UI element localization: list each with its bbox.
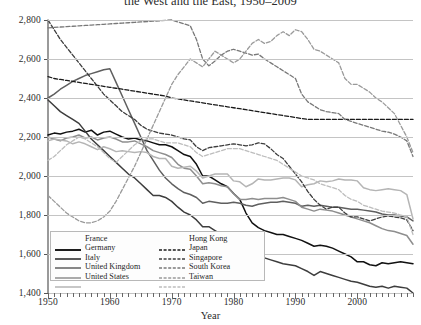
x-tick-mark: [67, 293, 68, 297]
x-tick-mark: [289, 293, 290, 297]
legend-label: Italy: [85, 253, 100, 262]
chart-title: the West and the East, 1950–2009: [0, 0, 421, 9]
x-tick-mark: [97, 293, 98, 297]
gridline: [48, 98, 413, 99]
x-tick-mark: [333, 293, 334, 297]
legend-label: Germany: [85, 243, 115, 252]
x-tick-mark: [79, 293, 80, 297]
x-tick-mark: [295, 293, 296, 299]
x-tick-mark: [339, 293, 340, 297]
y-tick-label: 2,400: [19, 93, 41, 103]
x-tick-mark: [147, 293, 148, 297]
x-axis-title: Year: [0, 310, 421, 321]
x-tick-mark: [351, 293, 352, 297]
y-axis-labels: 1,4001,6001,8002,0002,2002,4002,6002,800: [0, 0, 48, 325]
x-tick-mark: [326, 293, 327, 297]
x-tick-mark: [258, 293, 259, 297]
x-tick-mark: [48, 293, 49, 299]
x-tick-mark: [277, 293, 278, 297]
series-line: [48, 20, 413, 231]
x-tick-mark: [394, 293, 395, 297]
x-tick-mark: [227, 293, 228, 297]
x-tick-mark: [407, 293, 408, 297]
y-axis-title: Hours: [0, 141, 1, 165]
x-tick-mark: [215, 293, 216, 297]
gridline: [48, 215, 413, 216]
series-line: [48, 69, 413, 221]
x-tick-mark: [184, 293, 185, 297]
x-tick-mark: [166, 293, 167, 297]
x-tick-mark: [302, 293, 303, 297]
y-tick-label: 2,600: [19, 54, 41, 64]
legend-label: Singapore: [189, 253, 222, 262]
x-tick-mark: [85, 293, 86, 297]
y-tick-label: 1,600: [19, 249, 41, 259]
legend-label: Hong Kong: [189, 234, 227, 243]
x-tick-mark: [283, 293, 284, 297]
x-tick-mark: [122, 293, 123, 297]
chart-root: the West and the East, 1950–2009 1,4001,…: [0, 0, 421, 325]
x-tick-mark: [128, 293, 129, 297]
x-tick-mark: [203, 293, 204, 297]
x-tick-mark: [104, 293, 105, 297]
x-tick-mark: [370, 293, 371, 297]
legend-column-west: FranceGermanyItalyUnited KingdomUnited S…: [55, 234, 140, 281]
x-tick-mark: [221, 293, 222, 297]
gridline: [48, 137, 413, 138]
legend-label: United Kingdom: [85, 262, 140, 271]
x-tick-mark: [252, 293, 253, 297]
chart-legend: FranceGermanyItalyUnited KingdomUnited S…: [50, 231, 265, 281]
x-tick-mark: [314, 293, 315, 297]
legend-label: France: [85, 234, 107, 243]
x-tick-mark: [159, 293, 160, 297]
x-tick-mark: [196, 293, 197, 297]
y-tick-label: 2,800: [19, 15, 41, 25]
x-tick-mark: [376, 293, 377, 297]
x-tick-mark: [413, 293, 414, 297]
legend-label: Taiwan: [189, 272, 213, 281]
legend-label: Japan: [189, 243, 208, 252]
x-tick-mark: [271, 293, 272, 297]
x-tick-mark: [135, 293, 136, 297]
x-tick-mark: [116, 293, 117, 297]
x-tick-mark: [141, 293, 142, 297]
x-tick-mark: [246, 293, 247, 297]
x-tick-mark: [382, 293, 383, 297]
x-tick-mark: [240, 293, 241, 297]
x-tick-mark: [388, 293, 389, 297]
x-tick-mark: [401, 293, 402, 297]
x-tick-mark: [54, 293, 55, 297]
x-tick-mark: [73, 293, 74, 297]
x-tick-mark: [234, 293, 235, 299]
x-tick-mark: [91, 293, 92, 297]
x-tick-mark: [190, 293, 191, 297]
x-tick-mark: [308, 293, 309, 297]
x-tick-mark: [345, 293, 346, 297]
x-tick-mark: [172, 293, 173, 299]
x-tick-mark: [320, 293, 321, 297]
x-tick-mark: [60, 293, 61, 297]
legend-item[interactable]: Hong Kong: [159, 234, 230, 243]
legend-label: South Korea: [189, 262, 230, 271]
y-tick-label: 1,800: [19, 210, 41, 220]
x-tick-mark: [178, 293, 179, 297]
gridline: [48, 59, 413, 60]
legend-column-east: Hong KongJapanSingaporeSouth KoreaTaiwan: [159, 234, 230, 281]
legend-item[interactable]: France: [55, 234, 140, 243]
x-tick-mark: [153, 293, 154, 297]
gridline: [48, 20, 413, 21]
legend-label: United States: [85, 272, 129, 281]
x-tick-mark: [265, 293, 266, 297]
y-tick-label: 2,000: [19, 171, 41, 181]
x-tick-mark: [357, 293, 358, 299]
x-tick-mark: [209, 293, 210, 297]
y-tick-label: 2,200: [19, 132, 41, 142]
x-tick-mark: [364, 293, 365, 297]
gridline: [48, 176, 413, 177]
x-tick-mark: [110, 293, 111, 299]
